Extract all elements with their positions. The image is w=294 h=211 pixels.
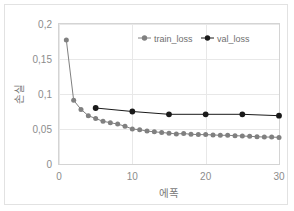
data-point: [166, 111, 172, 117]
x-axis-tick-label: 30: [273, 171, 285, 182]
data-point: [86, 113, 91, 118]
data-point: [269, 135, 274, 140]
data-point: [203, 111, 209, 117]
data-point: [64, 38, 69, 43]
data-point: [167, 131, 172, 136]
y-axis-tick-label: 0: [46, 159, 52, 170]
gridlines: [59, 24, 280, 165]
chart-frame: 00,050,10,150,2 0102030 손실 에폭 train_loss…: [4, 4, 288, 205]
data-point: [145, 129, 150, 134]
legend-label: train_loss: [154, 34, 193, 44]
legend-item-train_loss[interactable]: train_loss: [138, 34, 193, 44]
data-point: [225, 133, 230, 138]
y-axis-tick-label: 0,15: [33, 54, 53, 65]
chart-legend: train_lossval_loss: [138, 34, 250, 44]
data-point: [93, 116, 98, 121]
series-line: [96, 108, 279, 116]
x-axis-tick-label: 20: [200, 171, 212, 182]
data-point: [108, 120, 113, 125]
series-line: [66, 40, 279, 137]
legend-marker: [142, 35, 147, 40]
data-point: [137, 127, 142, 132]
data-point: [277, 135, 282, 140]
data-point: [218, 133, 223, 138]
data-point: [233, 133, 238, 138]
data-point: [276, 113, 282, 119]
data-point: [189, 132, 194, 137]
data-point: [262, 135, 267, 140]
y-axis-title: 손실: [13, 84, 25, 104]
y-axis-tick-label: 0,05: [33, 124, 53, 135]
data-point: [129, 109, 135, 115]
data-point: [101, 119, 106, 124]
series-train_loss: [64, 38, 282, 140]
data-point: [152, 129, 157, 134]
series-val_loss: [93, 105, 282, 119]
data-point: [247, 134, 252, 139]
x-axis-title: 에폭: [159, 187, 179, 199]
legend-label: val_loss: [217, 34, 250, 44]
data-point: [71, 98, 76, 103]
y-axis-tick-labels: 00,050,10,150,2: [33, 19, 53, 170]
line-chart: 00,050,10,150,2 0102030 손실 에폭 train_loss…: [5, 5, 289, 206]
data-point: [255, 134, 260, 139]
chart-svg: 00,050,10,150,2 0102030 손실 에폭 train_loss…: [5, 5, 289, 206]
series-layer: [64, 38, 282, 140]
x-axis-tick-labels: 0102030: [56, 171, 285, 182]
data-point: [211, 132, 216, 137]
legend-item-val_loss[interactable]: val_loss: [201, 34, 250, 44]
data-point: [181, 131, 186, 136]
data-point: [130, 127, 135, 132]
legend-marker: [205, 35, 210, 40]
y-axis-tick-label: 0,2: [38, 19, 52, 30]
data-point: [203, 132, 208, 137]
data-point: [159, 130, 164, 135]
x-axis-tick-label: 10: [127, 171, 139, 182]
data-point: [239, 111, 245, 117]
y-axis-tick-label: 0,1: [38, 89, 52, 100]
data-point: [93, 105, 99, 111]
data-point: [174, 131, 179, 136]
data-point: [115, 122, 120, 127]
data-point: [196, 132, 201, 137]
data-point: [240, 134, 245, 139]
x-axis-tick-label: 0: [56, 171, 62, 182]
data-point: [79, 107, 84, 112]
data-point: [123, 124, 128, 129]
